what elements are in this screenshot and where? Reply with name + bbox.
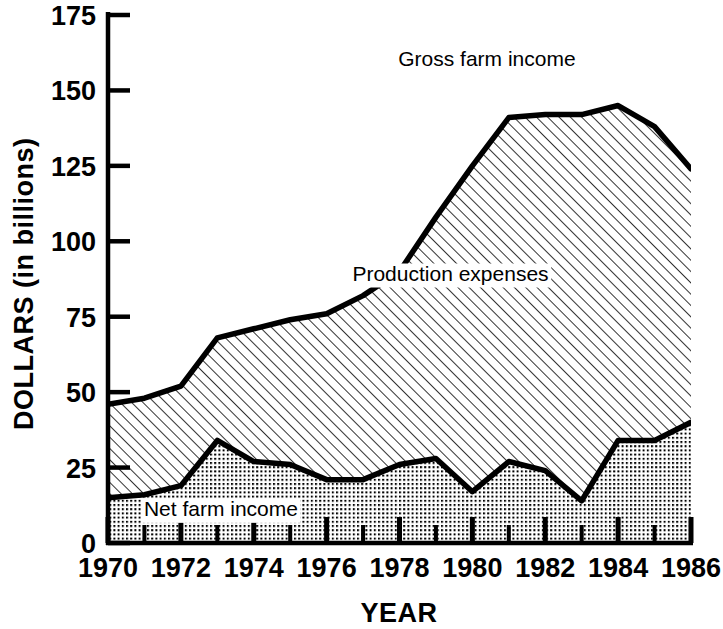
y-tick-label: 100 [51, 227, 96, 257]
y-tick-label: 25 [66, 454, 96, 484]
series-annotation-label: Net farm income [144, 497, 298, 520]
y-axis-title: DOLLARS (in billions) [9, 138, 39, 430]
x-tick-label: 1970 [78, 553, 138, 583]
area-production-expenses [108, 106, 691, 501]
y-tick-label: 150 [51, 76, 96, 106]
series-annotation-label: Gross farm income [398, 47, 575, 70]
x-tick-label: 1980 [442, 553, 502, 583]
chart-svg: 0255075100125150175 19701972197419761978… [0, 0, 723, 629]
x-tick-label: 1978 [369, 553, 429, 583]
x-tick-label: 1976 [297, 553, 357, 583]
x-tick-label: 1982 [515, 553, 575, 583]
y-tick-label: 125 [51, 152, 96, 182]
plot-areas [108, 106, 691, 543]
series-annotation-label: Production expenses [352, 262, 548, 285]
y-tick-label: 175 [51, 1, 96, 31]
x-axis-title: YEAR [360, 598, 437, 628]
x-tick-label: 1972 [151, 553, 211, 583]
y-tick-label: 75 [66, 303, 96, 333]
x-tick-label: 1984 [588, 553, 648, 583]
chart-figure: 0255075100125150175 19701972197419761978… [0, 0, 723, 629]
y-axis-tick-labels: 0255075100125150175 [51, 1, 96, 559]
y-tick-label: 50 [66, 378, 96, 408]
x-axis-tick-labels: 197019721974197619781980198219841986 [78, 553, 721, 583]
x-tick-label: 1974 [224, 553, 284, 583]
x-tick-label: 1986 [661, 553, 721, 583]
